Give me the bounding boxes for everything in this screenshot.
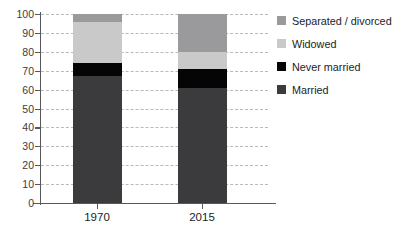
- legend-swatch-icon-separated-divorced: [277, 16, 286, 25]
- x-tick-mark-2015: [202, 203, 203, 209]
- y-tick-label-60: 60: [0, 85, 34, 95]
- bar-segment-2015-separated-divorced[interactable]: [178, 14, 227, 52]
- y-tick-mark-60: [35, 90, 41, 91]
- y-tick-mark-100: [35, 14, 41, 15]
- bar-2015[interactable]: [178, 14, 227, 203]
- y-tick-label-0: 0: [0, 198, 34, 208]
- legend-item-widowed[interactable]: Widowed: [277, 33, 410, 54]
- bar-1970[interactable]: [73, 14, 122, 203]
- y-tick-mark-30: [35, 146, 41, 147]
- y-tick-mark-90: [35, 33, 41, 34]
- y-tick-label-40: 40: [0, 122, 34, 132]
- legend-swatch-icon-never-married: [277, 62, 286, 71]
- y-tick-mark-50: [35, 109, 41, 110]
- x-tick-mark-1970: [97, 203, 98, 209]
- chart-legend: Separated / divorced Widowed Never marri…: [277, 10, 410, 102]
- bar-segment-1970-separated-divorced[interactable]: [73, 14, 122, 22]
- legend-swatch-icon-widowed: [277, 39, 286, 48]
- legend-label-widowed: Widowed: [292, 38, 336, 50]
- legend-item-married[interactable]: Married: [277, 79, 410, 100]
- plot-area: [41, 14, 268, 203]
- bar-segment-2015-widowed[interactable]: [178, 52, 227, 69]
- bar-segment-1970-married[interactable]: [73, 76, 122, 203]
- legend-swatch-icon-married: [277, 85, 286, 94]
- x-axis-line: [33, 203, 276, 204]
- y-tick-label-100: 100: [0, 9, 34, 19]
- bar-segment-2015-never-married[interactable]: [178, 69, 227, 88]
- y-tick-label-10: 10: [0, 179, 34, 189]
- y-tick-mark-20: [35, 165, 41, 166]
- y-tick-label-20: 20: [0, 160, 34, 170]
- legend-item-separated-divorced[interactable]: Separated / divorced: [277, 10, 410, 31]
- y-tick-mark-70: [35, 71, 41, 72]
- y-tick-label-90: 90: [0, 28, 34, 38]
- y-tick-label-80: 80: [0, 47, 34, 57]
- y-tick-label-50: 50: [0, 104, 34, 114]
- bar-segment-2015-married[interactable]: [178, 88, 227, 203]
- y-tick-mark-0: [35, 203, 41, 204]
- legend-label-never-married: Never married: [292, 61, 360, 73]
- legend-item-never-married[interactable]: Never married: [277, 56, 410, 77]
- x-tick-label-2015: 2015: [167, 211, 237, 224]
- y-tick-label-30: 30: [0, 141, 34, 151]
- y-tick-mark-40: [35, 127, 41, 128]
- x-tick-label-1970: 1970: [62, 211, 132, 224]
- bar-segment-1970-widowed[interactable]: [73, 22, 122, 64]
- legend-label-separated-divorced: Separated / divorced: [292, 15, 392, 27]
- legend-label-married: Married: [292, 84, 329, 96]
- y-tick-mark-10: [35, 184, 41, 185]
- y-tick-mark-80: [35, 52, 41, 53]
- y-tick-label-70: 70: [0, 66, 34, 76]
- stacked-bar-chart: 100 90 80 70 60 50 40 30 20 10 0 1970 20…: [0, 0, 410, 232]
- bar-segment-1970-never-married[interactable]: [73, 63, 122, 76]
